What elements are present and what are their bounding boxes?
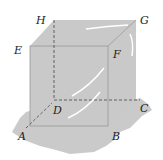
vertex-label-h: H <box>35 14 46 27</box>
vertex-label-a: A <box>17 130 26 143</box>
cube-body <box>30 20 136 126</box>
cube-diagram: H G E F D C A B <box>0 0 163 160</box>
vertex-label-g: G <box>140 14 149 27</box>
vertex-label-c: C <box>140 102 149 115</box>
vertex-label-e: E <box>13 44 22 57</box>
vertex-label-b: B <box>111 130 120 143</box>
vertex-label-d: D <box>52 104 62 117</box>
vertex-label-f: F <box>112 48 121 61</box>
